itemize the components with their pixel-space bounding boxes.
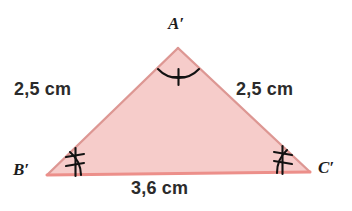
vertex-label-b-prime: B′ (13, 160, 29, 180)
triangle-shape (47, 48, 310, 175)
side-length-label-a-prime-c-prime: 2,5 cm (236, 79, 293, 100)
side-length-label-b-prime-c-prime: 3,6 cm (131, 178, 188, 199)
side-length-label-a-prime-b-prime: 2,5 cm (14, 79, 71, 100)
vertex-label-c-prime: C′ (318, 158, 334, 178)
vertex-label-a-prime: A′ (168, 14, 184, 34)
